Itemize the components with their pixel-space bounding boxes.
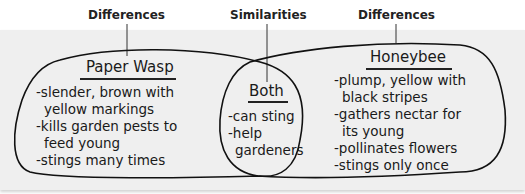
left-title: Paper Wasp xyxy=(86,58,174,76)
right-title: Honeybee xyxy=(370,48,446,66)
right-item: black stripes xyxy=(342,89,428,106)
header-similarities: Similarities xyxy=(230,8,307,22)
left-item: feed young xyxy=(44,135,120,152)
center-item: gardeners xyxy=(235,142,303,159)
right-title-underline xyxy=(366,68,452,70)
right-item: -pollinates flowers xyxy=(334,140,457,157)
right-item: -gathers nectar for xyxy=(334,106,461,123)
left-item: -kills garden pests to xyxy=(36,118,177,135)
left-item: -slender, brown with xyxy=(36,84,174,101)
left-item: yellow markings xyxy=(44,101,154,118)
right-item: its young xyxy=(342,123,404,140)
right-item: -stings only once xyxy=(334,157,449,174)
right-item: -plump, yellow with xyxy=(334,72,466,89)
left-title-underline xyxy=(80,78,176,80)
center-item: -can sting xyxy=(228,108,295,125)
center-title-underline xyxy=(248,101,288,103)
center-item: -help xyxy=(228,125,262,142)
header-differences-left: Differences xyxy=(88,8,165,22)
header-differences-right: Differences xyxy=(358,8,435,22)
center-title: Both xyxy=(249,82,284,100)
left-item: -stings many times xyxy=(36,152,165,169)
